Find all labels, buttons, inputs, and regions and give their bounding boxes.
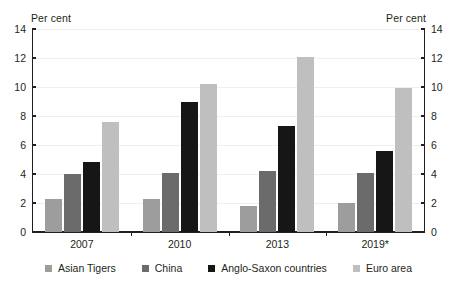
x-axis-category-label: 2013 (266, 238, 289, 250)
legend-item[interactable]: Euro area (353, 263, 412, 274)
legend-swatch-icon (142, 265, 149, 272)
bar (162, 173, 179, 232)
bar (278, 126, 295, 232)
bar (357, 173, 374, 232)
bar (376, 151, 393, 232)
y-axis-label-right: 14 (431, 24, 443, 35)
y-axis-label-left: 12 (14, 53, 26, 64)
y-axis-label-left: 14 (14, 24, 26, 35)
bar (83, 162, 100, 232)
y-axis-label-right: 10 (431, 82, 443, 93)
y-axis-label-right: 12 (431, 53, 443, 64)
legend-item[interactable]: Anglo-Saxon countries (208, 263, 327, 274)
x-tick (326, 232, 327, 236)
legend-swatch-icon (45, 265, 52, 272)
bar (45, 199, 62, 232)
y-axis-label-left: 10 (14, 82, 26, 93)
bar-chart: Per cent Per cent 0022446688101012121414… (0, 0, 457, 287)
bar (259, 171, 276, 232)
legend-label: Anglo-Saxon countries (221, 263, 327, 274)
bar (338, 203, 355, 232)
plot-area: 0022446688101012121414 2007201020132019* (33, 29, 424, 232)
chart-legend: Asian TigersChinaAnglo-Saxon countriesEu… (0, 258, 457, 278)
y-axis-label-left: 0 (20, 227, 26, 238)
bar (200, 84, 217, 232)
legend-item[interactable]: China (142, 263, 182, 274)
y-axis-label-left: 8 (20, 111, 26, 122)
y-axis-label-left: 2 (20, 198, 26, 209)
y-axis-label-right: 0 (431, 227, 437, 238)
x-axis-category-label: 2019* (361, 238, 388, 250)
left-axis-unit-label: Per cent (31, 12, 71, 24)
bar (181, 102, 198, 233)
y-axis-label-left: 6 (20, 140, 26, 151)
legend-swatch-icon (353, 265, 360, 272)
legend-swatch-icon (208, 265, 215, 272)
y-axis-label-right: 6 (431, 140, 437, 151)
y-axis-label-right: 4 (431, 169, 437, 180)
bars-layer (33, 29, 424, 232)
bar (64, 174, 81, 232)
bar (395, 88, 412, 232)
bar (143, 199, 160, 232)
bar (240, 206, 257, 232)
y-axis-label-left: 4 (20, 169, 26, 180)
x-tick (131, 232, 132, 236)
legend-label: Euro area (366, 263, 412, 274)
legend-label: Asian Tigers (58, 263, 116, 274)
legend-item[interactable]: Asian Tigers (45, 263, 116, 274)
right-axis-unit-label: Per cent (386, 12, 426, 24)
y-axis-label-right: 8 (431, 111, 437, 122)
legend-label: China (155, 263, 182, 274)
x-tick (229, 232, 230, 236)
y-axis-label-right: 2 (431, 198, 437, 209)
bar (102, 122, 119, 232)
x-axis-category-label: 2010 (168, 238, 191, 250)
x-axis-category-label: 2007 (70, 238, 93, 250)
bar (297, 57, 314, 232)
